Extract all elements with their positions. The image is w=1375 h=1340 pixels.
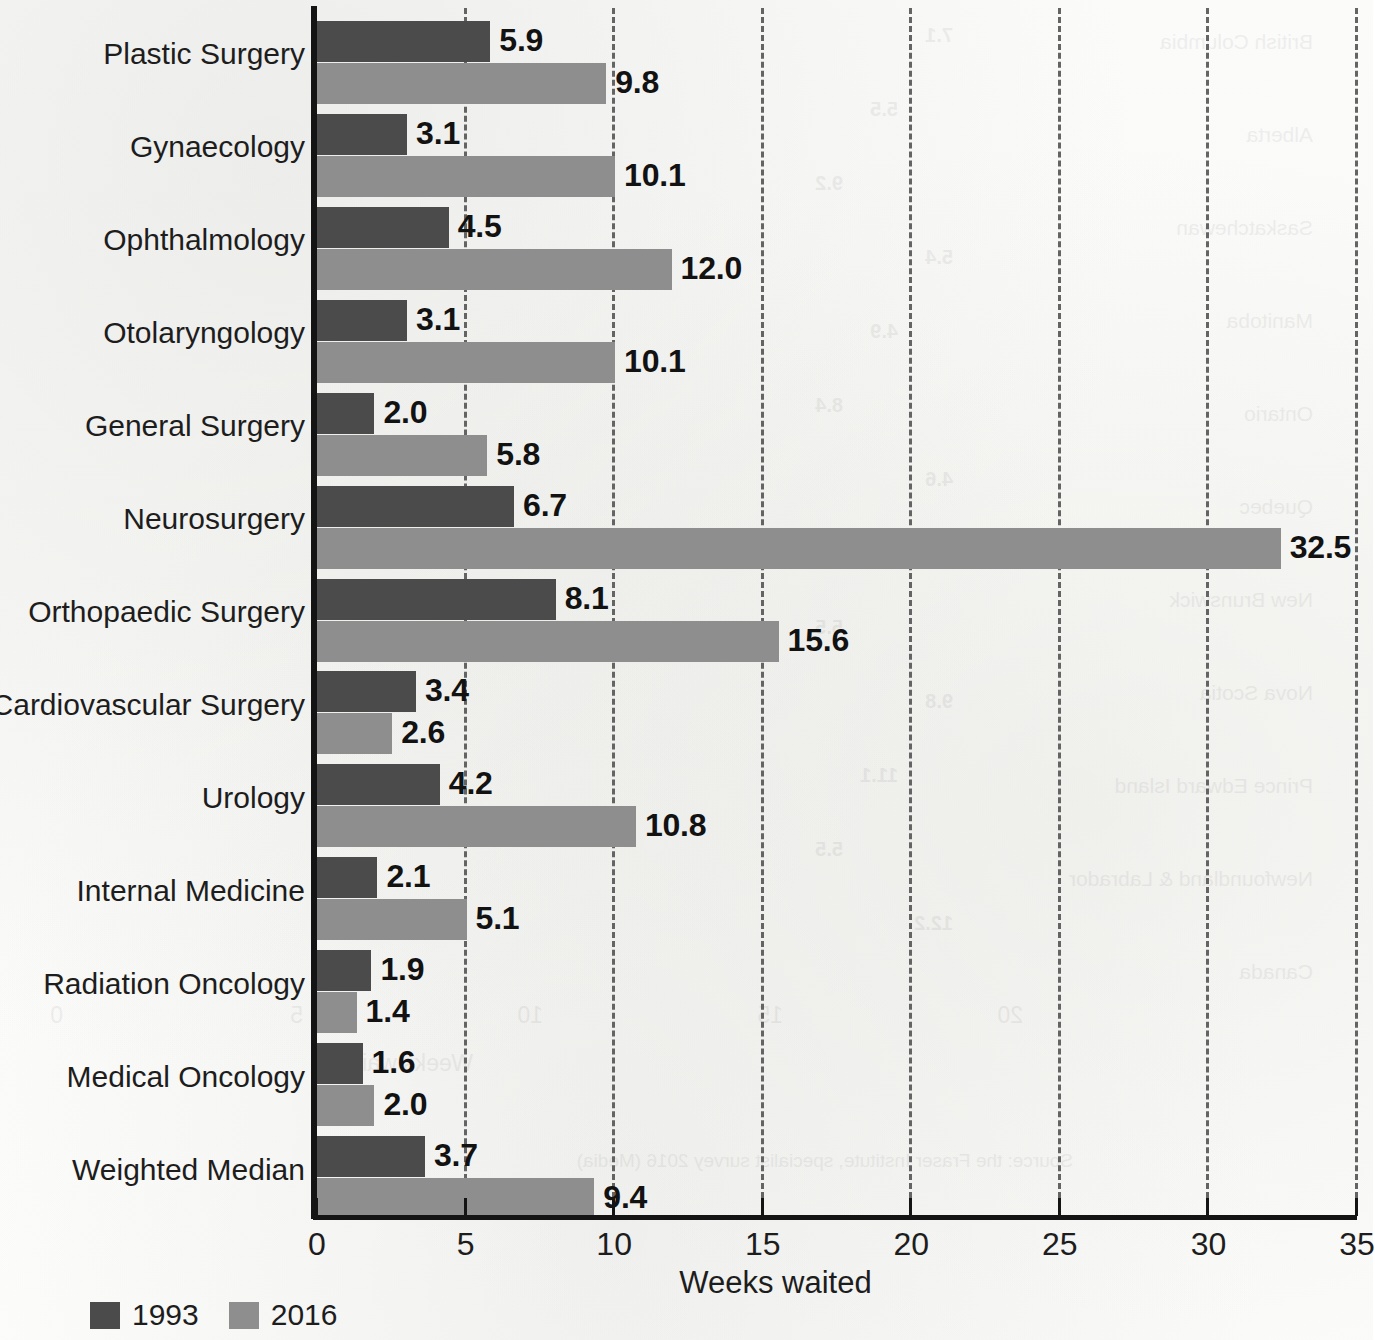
bar-value-label: 2.0 [374, 392, 427, 433]
legend-swatch-2016 [229, 1302, 259, 1329]
bar-group: 5.99.8 [315, 21, 1355, 104]
bar-1993[interactable] [315, 1136, 425, 1177]
bar-1993[interactable] [315, 207, 449, 248]
bar-1993[interactable] [315, 300, 407, 341]
bar-1993[interactable] [315, 1043, 363, 1084]
category-label: Plastic Surgery [103, 39, 305, 69]
category-label: Neurosurgery [123, 504, 305, 534]
bar-value-label: 9.8 [606, 62, 659, 103]
x-tick-label-35: 35 [1339, 1226, 1375, 1263]
bar-value-label: 2.6 [392, 712, 445, 753]
y-axis-line [311, 6, 317, 1219]
gridline-35 [1355, 8, 1358, 1216]
bar-group: 4.210.8 [315, 764, 1355, 847]
bar-1993[interactable] [315, 857, 377, 898]
bar-group: 6.732.5 [315, 486, 1355, 569]
bar-1993[interactable] [315, 671, 416, 712]
bar-1993[interactable] [315, 393, 374, 434]
bar-2016[interactable] [315, 621, 779, 662]
bar-value-label: 4.5 [449, 206, 502, 247]
bar-value-label: 10.8 [636, 805, 706, 846]
x-tick-mark-35 [1355, 1198, 1358, 1216]
category-label: Gynaecology [130, 132, 305, 162]
category-label: Cardiovascular Surgery [0, 690, 305, 720]
bar-1993[interactable] [315, 114, 407, 155]
bar-2016[interactable] [315, 1085, 374, 1126]
bar-value-label: 4.2 [440, 763, 493, 804]
bar-1993[interactable] [315, 21, 490, 62]
x-tick-mark-25 [1058, 1198, 1061, 1216]
bar-value-label: 10.1 [615, 341, 685, 382]
category-label: Urology [202, 783, 305, 813]
x-tick-label-0: 0 [308, 1226, 326, 1263]
category-label: Otolaryngology [103, 318, 305, 348]
x-tick-label-10: 10 [596, 1226, 632, 1263]
category-label: Medical Oncology [67, 1062, 305, 1092]
bar-group: 3.42.6 [315, 671, 1355, 754]
bar-group: 3.110.1 [315, 114, 1355, 197]
bar-2016[interactable] [315, 899, 467, 940]
bar-2016[interactable] [315, 528, 1281, 569]
bar-2016[interactable] [315, 156, 615, 197]
x-tick-label-5: 5 [457, 1226, 475, 1263]
bar-value-label: 3.4 [416, 670, 469, 711]
bar-value-label: 3.7 [425, 1135, 478, 1176]
x-tick-mark-15 [761, 1198, 764, 1216]
bar-value-label: 6.7 [514, 485, 567, 526]
category-label: General Surgery [85, 411, 305, 441]
bar-group: 2.15.1 [315, 857, 1355, 940]
x-tick-mark-0 [315, 1198, 318, 1216]
bar-value-label: 3.1 [407, 299, 460, 340]
bar-2016[interactable] [315, 992, 357, 1033]
bar-value-label: 1.9 [371, 949, 424, 990]
legend-swatch-1993 [90, 1302, 120, 1329]
bar-group: 3.79.4 [315, 1136, 1355, 1219]
category-label: Weighted Median [72, 1155, 305, 1185]
bar-2016[interactable] [315, 713, 392, 754]
bar-2016[interactable] [315, 1178, 594, 1219]
bar-value-label: 5.1 [467, 898, 520, 939]
bar-value-label: 2.1 [377, 856, 430, 897]
x-axis-line [313, 1215, 1357, 1220]
bar-value-label: 10.1 [615, 155, 685, 196]
x-tick-label-20: 20 [893, 1226, 929, 1263]
legend-label-2016: 2016 [271, 1300, 338, 1330]
bar-value-label: 5.8 [487, 434, 540, 475]
bar-value-label: 2.0 [374, 1084, 427, 1125]
legend-item-2016[interactable]: 2016 [229, 1300, 338, 1330]
category-label: Radiation Oncology [43, 969, 305, 999]
bar-1993[interactable] [315, 950, 371, 991]
bar-group: 3.110.1 [315, 300, 1355, 383]
bar-value-label: 15.6 [779, 620, 849, 661]
bar-2016[interactable] [315, 63, 606, 104]
legend-item-1993[interactable]: 1993 [90, 1300, 199, 1330]
bar-value-label: 5.9 [490, 20, 543, 61]
bar-1993[interactable] [315, 764, 440, 805]
x-tick-label-30: 30 [1191, 1226, 1227, 1263]
x-tick-mark-5 [464, 1198, 467, 1216]
bar-2016[interactable] [315, 249, 672, 290]
bar-value-label: 3.1 [407, 113, 460, 154]
bar-group: 8.115.6 [315, 579, 1355, 662]
bar-value-label: 12.0 [672, 248, 742, 289]
bar-1993[interactable] [315, 579, 556, 620]
bar-2016[interactable] [315, 342, 615, 383]
category-label: Internal Medicine [77, 876, 305, 906]
bar-value-label: 1.6 [363, 1042, 416, 1083]
bar-1993[interactable] [315, 486, 514, 527]
bar-group: 4.512.0 [315, 207, 1355, 290]
bar-2016[interactable] [315, 806, 636, 847]
bar-group: 2.05.8 [315, 393, 1355, 476]
bar-group: 1.91.4 [315, 950, 1355, 1033]
x-tick-mark-30 [1206, 1198, 1209, 1216]
category-label: Ophthalmology [103, 225, 305, 255]
category-label: Orthopaedic Surgery [28, 597, 305, 627]
legend-label-1993: 1993 [132, 1300, 199, 1330]
bar-value-label: 8.1 [556, 578, 609, 619]
bar-value-label: 1.4 [357, 991, 410, 1032]
x-tick-label-15: 15 [745, 1226, 781, 1263]
bar-value-label: 9.4 [594, 1177, 647, 1218]
bar-group: 1.62.0 [315, 1043, 1355, 1126]
bar-2016[interactable] [315, 435, 487, 476]
